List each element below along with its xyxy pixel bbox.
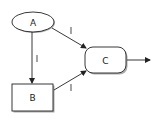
edge-b-to-c: I	[54, 71, 86, 93]
edge-a-to-c: I	[52, 27, 86, 48]
node-a[interactable]: A	[12, 12, 55, 33]
node-c[interactable]: C	[85, 47, 128, 75]
node-b-label: B	[29, 93, 35, 103]
edge-a-to-b-label: I	[36, 55, 38, 64]
flow-diagram: A B C I I I	[0, 0, 157, 121]
edge-b-to-c-label: I	[70, 84, 72, 93]
node-c-label: C	[102, 56, 108, 66]
node-a-label: A	[30, 18, 37, 28]
node-b[interactable]: B	[12, 84, 55, 113]
edge-a-to-c-label: I	[70, 27, 72, 36]
edge-a-to-b: I	[32, 32, 38, 83]
